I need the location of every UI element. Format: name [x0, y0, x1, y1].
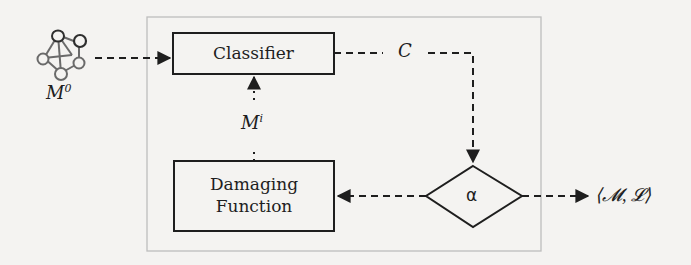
classifier-label: Classifier	[173, 42, 334, 64]
damaged-model-label-sup: i	[259, 112, 263, 125]
diagram-canvas	[0, 0, 691, 265]
decision-label: α	[466, 185, 477, 205]
network-graph-icon	[38, 31, 87, 81]
classifier-output-label: C	[398, 40, 412, 61]
damaged-model-label: Mi	[241, 112, 263, 133]
damaging-function-label-line2: Function	[174, 195, 334, 217]
damaging-function-label-line1: Damaging	[174, 173, 334, 195]
model-input-label-base: M	[46, 82, 64, 103]
damaged-model-label-base: M	[241, 112, 259, 133]
edge-c-to-decision	[428, 53, 473, 162]
output-label: ⟨𝓜, 𝓛⟩	[595, 184, 651, 206]
model-input-label: M0	[46, 82, 71, 103]
model-input-label-sup: 0	[64, 82, 71, 95]
damaging-function-label: Damaging Function	[174, 173, 334, 217]
